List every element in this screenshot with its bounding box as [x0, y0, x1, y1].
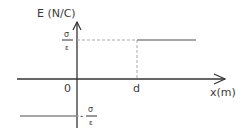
lower-denominator: ε — [89, 119, 93, 127]
x-axis-label: x(m) — [210, 86, 236, 99]
upper-numerator: σ — [64, 30, 69, 39]
field-diagram: E (N/C) x(m) 0 d σ ε - σ ε — [0, 0, 247, 139]
upper-denominator: ε — [65, 44, 69, 52]
origin-label: 0 — [64, 82, 71, 95]
y-axis-label: E (N/C) — [37, 7, 76, 20]
d-label: d — [133, 82, 140, 95]
lower-numerator: σ — [88, 105, 93, 114]
lower-sign: - — [80, 111, 83, 121]
